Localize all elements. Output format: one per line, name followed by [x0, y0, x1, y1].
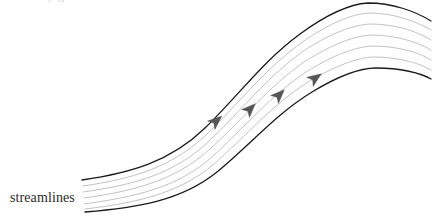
arrow-1 — [208, 112, 226, 130]
streamline-5 — [85, 57, 431, 209]
streamline-2 — [83, 24, 431, 192]
streamline-4 — [84, 46, 431, 204]
flow-direction-arrow-group — [208, 69, 325, 129]
streamline-group — [82, 3, 431, 212]
arrow-4 — [307, 69, 325, 86]
streamline-3 — [84, 35, 431, 198]
lower-boundary — [85, 68, 431, 212]
arrow-3 — [271, 86, 289, 104]
streamlines-figure: y g .ln { fill: none; stroke-linecap: ro… — [0, 0, 438, 219]
upper-boundary — [82, 3, 431, 180]
flow-diagram-canvas: .ln { fill: none; stroke-linecap: round;… — [0, 0, 438, 219]
streamlines-label: streamlines — [10, 190, 75, 206]
streamline-1 — [83, 13, 431, 186]
arrow-2 — [242, 100, 260, 118]
